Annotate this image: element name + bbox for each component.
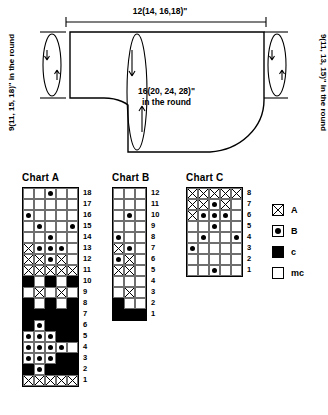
stitch-cell (113, 210, 124, 221)
stitch-cell (220, 210, 231, 221)
stitch-cell (34, 188, 45, 199)
chart-row-number: 14 (83, 231, 91, 242)
stitch-cell (34, 221, 45, 232)
chart-row-number: 11 (83, 264, 91, 275)
stitch-cell (23, 254, 34, 265)
stitch-cell (187, 265, 198, 276)
chart-row-number: 9 (151, 220, 159, 231)
stitch-cell (67, 254, 78, 265)
stitch-cell (56, 254, 67, 265)
chart-a-title: Chart A (22, 172, 91, 183)
stitch-cell (23, 188, 34, 199)
stitch-cell (56, 298, 67, 309)
stitch-cell (135, 210, 146, 221)
stitch-cell (231, 243, 242, 254)
stitch-cell (23, 199, 34, 210)
chart-a: Chart A 181716151413121110987654321 (22, 172, 91, 387)
stitch-cell (34, 353, 45, 364)
chart-b-grid (112, 187, 147, 321)
stitch-cell (56, 265, 67, 276)
stitch-cell (45, 276, 56, 287)
stitch-cell (220, 199, 231, 210)
stitch-cell (198, 221, 209, 232)
stitch-cell (198, 254, 209, 265)
chart-row-number: 7 (247, 198, 251, 209)
chart-row-number: 13 (83, 242, 91, 253)
stitch-cell (67, 221, 78, 232)
stitch-cell (67, 364, 78, 375)
chart-row-number: 5 (247, 220, 251, 231)
legend-label: B (291, 226, 298, 236)
chart-row-number: 4 (151, 275, 159, 286)
chart-row-number: 11 (151, 198, 159, 209)
stitch-cell (113, 254, 124, 265)
stitch-cell (209, 210, 220, 221)
stitch-cell (113, 188, 124, 199)
stitch-cell (124, 276, 135, 287)
legend-swatch-mc-icon (272, 267, 284, 279)
stitch-cell (23, 265, 34, 276)
stitch-cell (113, 309, 124, 320)
stitch-cell (67, 188, 78, 199)
chart-row-number: 3 (247, 242, 251, 253)
stitch-cell (113, 298, 124, 309)
chart-row-number: 10 (151, 209, 159, 220)
legend-label: c (291, 247, 296, 257)
stitch-cell (135, 254, 146, 265)
chart-row-number: 2 (83, 363, 91, 374)
stitch-cell (23, 276, 34, 287)
stitch-cell (23, 298, 34, 309)
stitch-cell (23, 364, 34, 375)
chart-row-number: 8 (247, 187, 251, 198)
stitch-cell (135, 276, 146, 287)
stitch-cell (23, 320, 34, 331)
left-dimension-ticks (40, 32, 66, 98)
stitch-cell (67, 375, 78, 386)
chart-row-number: 4 (247, 231, 251, 242)
left-dimension-label: 9(11, 15, 18)" in the round (7, 28, 16, 138)
chart-b-title: Chart B (112, 172, 159, 183)
stitch-cell (198, 243, 209, 254)
chart-row-number: 7 (83, 308, 91, 319)
stitch-cell (45, 309, 56, 320)
stitch-cell (34, 364, 45, 375)
stitch-cell (45, 232, 56, 243)
stitch-cell (113, 232, 124, 243)
chart-row-number: 6 (151, 253, 159, 264)
stitch-cell (220, 243, 231, 254)
stitch-cell (45, 320, 56, 331)
stitch-cell (23, 243, 34, 254)
chart-legend: ABcmc (272, 204, 304, 288)
stitch-cell (124, 309, 135, 320)
stitch-cell (45, 210, 56, 221)
stitch-cell (124, 287, 135, 298)
stitch-cell (231, 188, 242, 199)
top-dimension-label: 12(14, 16,18)" (60, 6, 260, 16)
stitch-cell (67, 320, 78, 331)
stitch-cell (198, 232, 209, 243)
chart-row-number: 3 (151, 286, 159, 297)
legend-label: A (291, 205, 298, 215)
stitch-cell (113, 221, 124, 232)
chart-c-row-numbers: 87654321 (247, 187, 251, 275)
stitch-cell (67, 232, 78, 243)
chart-row-number: 12 (151, 187, 159, 198)
chart-c-grid (186, 187, 243, 277)
stitch-cell (56, 188, 67, 199)
stitch-cell (113, 287, 124, 298)
stitch-cell (231, 265, 242, 276)
stitch-cell (124, 265, 135, 276)
stitch-cell (187, 188, 198, 199)
stitch-cell (34, 287, 45, 298)
stitch-cell (45, 375, 56, 386)
stitch-cell (209, 232, 220, 243)
chart-c-title: Chart C (186, 172, 251, 183)
legend-swatch-b-icon (272, 225, 284, 237)
stitch-cell (34, 320, 45, 331)
stitch-cell (231, 232, 242, 243)
stitch-cell (34, 243, 45, 254)
stitch-cell (209, 243, 220, 254)
stitch-cell (23, 210, 34, 221)
stitch-cell (231, 254, 242, 265)
stitch-cell (56, 375, 67, 386)
